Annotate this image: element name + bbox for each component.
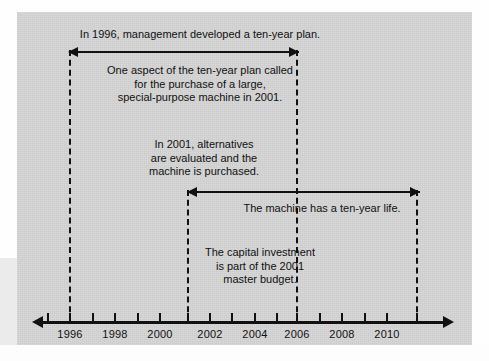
marker-line-2011 bbox=[416, 190, 418, 322]
axis-tick bbox=[187, 313, 189, 322]
axis-year-label-2006: 2006 bbox=[274, 328, 320, 340]
axis-tick bbox=[231, 313, 233, 322]
span-machine-life-line bbox=[197, 191, 420, 193]
axis-tick bbox=[159, 313, 161, 322]
axis-tick bbox=[69, 313, 71, 322]
marker-line-1996 bbox=[69, 50, 71, 322]
timeline-axis-line bbox=[43, 321, 443, 324]
axis-tick bbox=[386, 313, 388, 322]
diagram-canvas: In 1996, management developed a ten-year… bbox=[0, 0, 489, 361]
note-alternatives: In 2001, alternatives are evaluated and … bbox=[114, 138, 294, 179]
axis-tick bbox=[319, 313, 321, 322]
axis-tick bbox=[47, 313, 49, 322]
timeline-axis-left-arrowhead bbox=[32, 316, 43, 328]
note-machine-life: The machine has a ten-year life. bbox=[202, 202, 442, 216]
note-ten-year-plan: In 1996, management developed a ten-year… bbox=[55, 28, 345, 42]
axis-year-label-1998: 1998 bbox=[92, 328, 138, 340]
page-bottom-margin bbox=[0, 345, 489, 361]
note-capital-investment: The capital investment is part of the 20… bbox=[170, 246, 350, 287]
axis-year-label-1996: 1996 bbox=[47, 328, 93, 340]
span-ten-year-plan-line bbox=[78, 51, 299, 53]
note-one-aspect: One aspect of the ten-year plan called f… bbox=[80, 64, 320, 105]
marker-line-2006 bbox=[296, 50, 298, 322]
axis-year-label-2004: 2004 bbox=[232, 328, 278, 340]
axis-tick bbox=[416, 313, 418, 322]
marker-line-2001 bbox=[187, 190, 189, 322]
diagram-panel: In 1996, management developed a ten-year… bbox=[17, 12, 472, 345]
axis-tick bbox=[364, 313, 366, 322]
axis-year-label-2000: 2000 bbox=[137, 328, 183, 340]
axis-tick bbox=[341, 313, 343, 322]
axis-tick bbox=[209, 313, 211, 322]
axis-year-label-2010: 2010 bbox=[364, 328, 410, 340]
axis-tick bbox=[296, 313, 298, 322]
span-machine-life-right-arrowhead bbox=[410, 187, 420, 197]
axis-year-label-2002: 2002 bbox=[187, 328, 233, 340]
axis-year-label-2008: 2008 bbox=[319, 328, 365, 340]
axis-tick bbox=[92, 313, 94, 322]
axis-tick bbox=[254, 313, 256, 322]
axis-tick bbox=[114, 313, 116, 322]
timeline-axis-right-arrowhead bbox=[443, 316, 454, 328]
axis-tick bbox=[276, 313, 278, 322]
axis-tick bbox=[137, 313, 139, 322]
